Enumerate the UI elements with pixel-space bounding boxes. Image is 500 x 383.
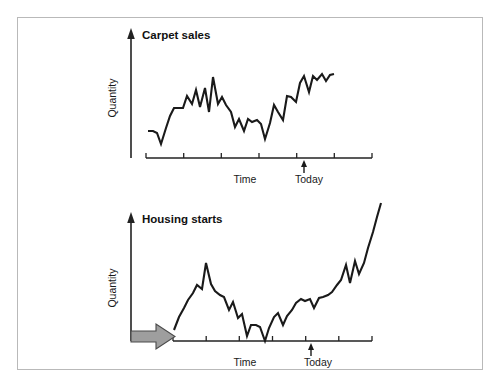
housing-chart-title: Housing starts xyxy=(142,213,223,225)
housing-y-axis-arrowhead xyxy=(127,212,135,223)
chart-housing-starts: Housing starts Quantity Time Today xyxy=(106,203,381,368)
housing-today-label: Today xyxy=(304,356,333,368)
carpet-y-axis-label: Quantity xyxy=(106,78,118,118)
carpet-today-label: Today xyxy=(295,173,324,185)
housing-start-indicator-arrow xyxy=(131,324,175,349)
carpet-today-marker-arrowhead xyxy=(301,160,307,167)
housing-x-axis-label: Time xyxy=(234,356,257,368)
carpet-y-axis-arrowhead xyxy=(127,28,135,39)
carpet-x-axis-label: Time xyxy=(234,173,257,185)
housing-y-axis-label: Quantity xyxy=(106,268,118,308)
housing-today-marker-arrowhead xyxy=(308,343,314,350)
carpet-chart-title: Carpet sales xyxy=(142,29,210,41)
charts-canvas: Carpet sales Quantity Time Today Housing… xyxy=(0,0,500,383)
carpet-sales-series xyxy=(148,74,334,144)
chart-carpet-sales: Carpet sales Quantity Time Today xyxy=(106,28,372,185)
